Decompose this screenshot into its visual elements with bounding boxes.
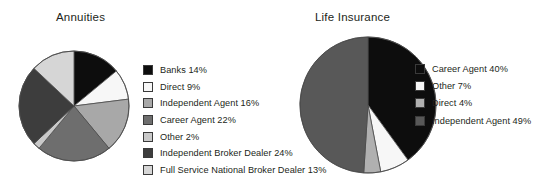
pie-chart-annuities (18, 50, 130, 166)
legend-swatch-icon (143, 65, 153, 75)
pie-svg-annuities (18, 50, 130, 162)
legend-item-label: Independent Broker Dealer 24% (160, 148, 293, 158)
legend-swatch-icon (143, 148, 153, 158)
legend-life-insurance: Career Agent 40%Other 7%Direct 4%Indepen… (415, 60, 531, 130)
legend-item-label: Other 7% (432, 81, 471, 91)
legend-item-label: Career Agent 40% (432, 64, 508, 74)
chart-panel-life-insurance: Life Insurance Career Agent 40%Other 7%D… (285, 0, 539, 183)
legend-item-label: Direct 4% (432, 98, 472, 108)
legend-item-life-1: Other 7% (415, 77, 531, 94)
chart-panel-annuities: Annuities Banks 14%Direct 9%Independent … (0, 0, 300, 183)
legend-swatch-icon (415, 116, 425, 126)
legend-item-label: Independent Agent 16% (160, 98, 259, 108)
legend-item-label: Career Agent 22% (160, 115, 236, 125)
legend-item-label: Banks 14% (160, 65, 207, 75)
legend-swatch-icon (143, 132, 153, 142)
legend-swatch-icon (143, 165, 153, 175)
figure-canvas: Annuities Banks 14%Direct 9%Independent … (0, 0, 539, 183)
legend-item-life-0: Career Agent 40% (415, 60, 531, 77)
legend-swatch-icon (143, 115, 153, 125)
legend-item-label: Independent Agent 49% (432, 116, 531, 126)
legend-swatch-icon (143, 98, 153, 108)
legend-item-label: Direct 9% (160, 82, 200, 92)
legend-swatch-icon (415, 64, 425, 74)
legend-swatch-icon (415, 98, 425, 108)
chart-title-life-insurance: Life Insurance (315, 11, 390, 23)
legend-item-life-3: Independent Agent 49% (415, 112, 531, 129)
legend-item-life-2: Direct 4% (415, 95, 531, 112)
pie-slice-life-3 (300, 37, 368, 173)
legend-item-label: Other 2% (160, 132, 199, 142)
chart-title-annuities: Annuities (56, 11, 105, 23)
legend-swatch-icon (415, 81, 425, 91)
legend-swatch-icon (143, 82, 153, 92)
